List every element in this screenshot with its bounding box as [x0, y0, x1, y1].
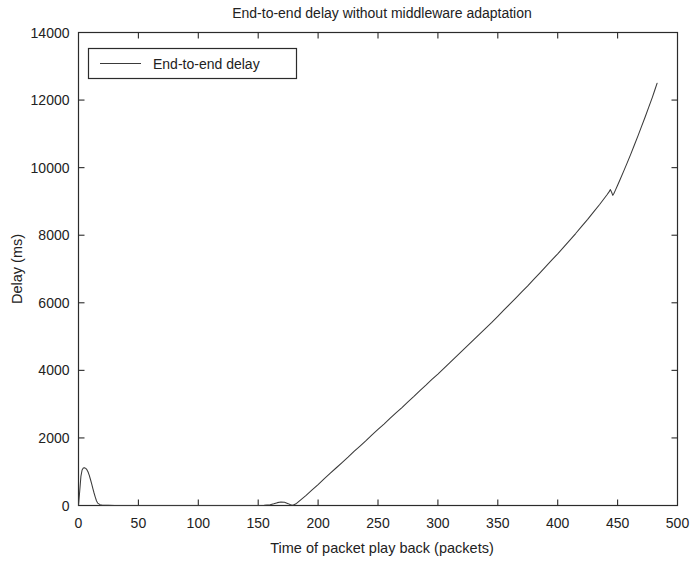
y-tick-label: 12000: [31, 92, 70, 108]
y-tick-label: 10000: [31, 160, 70, 176]
x-tick-label: 200: [306, 515, 330, 531]
y-tick-label: 4000: [38, 362, 69, 378]
figure-background: [0, 0, 695, 567]
x-axis-label: Time of packet play back (packets): [270, 540, 494, 556]
y-axis-label: Delay (ms): [9, 234, 25, 304]
y-tick-label: 0: [62, 498, 70, 514]
x-tick-label: 0: [75, 515, 83, 531]
x-tick-label: 100: [187, 515, 211, 531]
x-tick-label: 450: [606, 515, 630, 531]
x-tick-label: 350: [486, 515, 510, 531]
x-tick-label: 400: [546, 515, 570, 531]
chart-legend[interactable]: End-to-end delay: [89, 49, 297, 79]
y-tick-label: 6000: [38, 295, 69, 311]
x-tick-label: 500: [666, 515, 690, 531]
x-tick-label: 50: [131, 515, 147, 531]
y-tick-label: 8000: [38, 227, 69, 243]
x-tick-label: 300: [426, 515, 450, 531]
y-tick-label: 2000: [38, 430, 69, 446]
x-tick-label: 150: [247, 515, 271, 531]
chart-figure: End-to-end delay without middleware adap…: [0, 0, 695, 567]
x-tick-label: 250: [366, 515, 390, 531]
chart-title: End-to-end delay without middleware adap…: [232, 5, 532, 21]
legend-label-end-to-end-delay: End-to-end delay: [153, 56, 260, 72]
y-tick-label: 14000: [31, 25, 70, 41]
